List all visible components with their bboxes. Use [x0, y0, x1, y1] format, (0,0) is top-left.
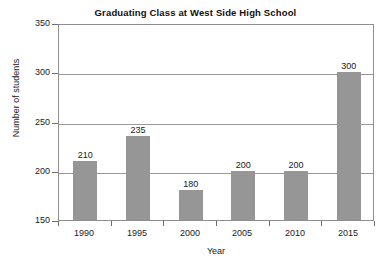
x-axis-tick-mark [58, 221, 59, 226]
x-axis-tick-mark [216, 221, 217, 226]
x-axis-tick-mark [321, 221, 322, 226]
bar-value-label: 300 [341, 61, 356, 71]
bars-layer: 210235180200200300 [59, 25, 373, 220]
y-axis-tick-label: 150 [16, 215, 50, 225]
x-axis-tick-mark [111, 221, 112, 226]
bar-slot: 200 [270, 25, 323, 220]
x-axis-tick-label: 2015 [318, 228, 378, 238]
y-axis-title: Number of students [11, 48, 21, 148]
x-axis-tick-label: 2005 [212, 228, 272, 238]
y-axis-tick-label: 250 [16, 117, 50, 127]
x-axis-tick-label: 2010 [265, 228, 325, 238]
bar[interactable] [126, 136, 150, 220]
bar-value-label: 200 [236, 160, 251, 170]
bar-value-label: 210 [78, 150, 93, 160]
x-axis-tick-mark [374, 221, 375, 226]
bar-value-label: 235 [130, 125, 145, 135]
bar-slot: 300 [322, 25, 375, 220]
bar[interactable] [337, 72, 361, 220]
bar[interactable] [284, 171, 308, 220]
bar[interactable] [231, 171, 255, 220]
plot-area: 210235180200200300 [58, 24, 374, 221]
bar-slot: 180 [164, 25, 217, 220]
x-axis-tick-label: 1990 [54, 228, 114, 238]
bar-slot: 210 [59, 25, 112, 220]
bar[interactable] [179, 190, 203, 220]
x-axis-tick-label: 2000 [160, 228, 220, 238]
chart-title: Graduating Class at West Side High Schoo… [0, 7, 391, 18]
x-axis-tick-label: 1995 [107, 228, 167, 238]
x-axis-tick-mark [163, 221, 164, 226]
bar-slot: 200 [217, 25, 270, 220]
y-axis-tick-label: 300 [16, 67, 50, 77]
y-axis-tick-label: 350 [16, 18, 50, 28]
bar-slot: 235 [112, 25, 165, 220]
bar[interactable] [73, 161, 97, 220]
bar-value-label: 200 [288, 160, 303, 170]
x-axis-title: Year [58, 246, 374, 256]
bar-chart: Graduating Class at West Side High Schoo… [0, 0, 391, 268]
y-axis-tick-label: 200 [16, 166, 50, 176]
x-axis-tick-mark [269, 221, 270, 226]
bar-value-label: 180 [183, 179, 198, 189]
